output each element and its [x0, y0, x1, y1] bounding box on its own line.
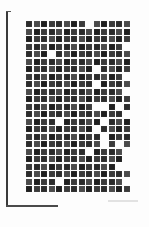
grid-cell [124, 21, 130, 27]
grid-cell [26, 21, 32, 27]
page-footer [108, 200, 138, 202]
grid-cell [56, 29, 62, 35]
grid-cell [101, 164, 107, 170]
grid-cell [94, 74, 100, 80]
grid-cell [26, 89, 32, 95]
grid-cell [116, 29, 122, 35]
grid-cell [109, 81, 115, 87]
grid-cell [86, 111, 92, 117]
grid-cell [86, 134, 92, 140]
grid-cell [64, 36, 70, 42]
grid-cell [64, 156, 70, 162]
grid-cell [79, 141, 85, 147]
grid-cell [94, 81, 100, 87]
grid-cell [124, 104, 130, 110]
grid-cell [86, 156, 92, 162]
grid-cell [34, 156, 40, 162]
grid-cell [64, 126, 70, 132]
grid-cell [34, 119, 40, 125]
grid-cell [86, 104, 92, 110]
grid-cell [71, 111, 77, 117]
grid-cell [41, 74, 47, 80]
grid-cell [56, 111, 62, 117]
grid-cell [49, 51, 55, 57]
grid-cell [109, 149, 115, 155]
grid-cell [86, 141, 92, 147]
grid-cell [94, 134, 100, 140]
grid-cell [56, 134, 62, 140]
grid-cell [124, 171, 130, 177]
grid-cell [124, 186, 130, 192]
grid-cell [26, 36, 32, 42]
grid-cell [116, 66, 122, 72]
grid-cell [124, 29, 130, 35]
grid-cell [49, 29, 55, 35]
grid-cell [79, 29, 85, 35]
grid-cell [86, 36, 92, 42]
grid-cell [56, 74, 62, 80]
grid-cell [94, 89, 100, 95]
grid-cell [41, 171, 47, 177]
grid-cell [79, 104, 85, 110]
grid-cell [56, 89, 62, 95]
grid-cell [64, 104, 70, 110]
grid-cell [49, 186, 55, 192]
grid-cell [101, 66, 107, 72]
grid-cell [41, 51, 47, 57]
grid-cell [109, 126, 115, 132]
scanned-page [0, 0, 149, 227]
grid-cell [41, 179, 47, 185]
grid-cell [49, 111, 55, 117]
grid-cell [26, 104, 32, 110]
grid-cell [79, 81, 85, 87]
grid-cell [109, 179, 115, 185]
grid-cell [109, 51, 115, 57]
grid-cell [109, 66, 115, 72]
grid-cell [116, 119, 122, 125]
grid-cell [41, 164, 47, 170]
grid-cell [109, 44, 115, 50]
grid-cell [94, 44, 100, 50]
grid-cell [64, 81, 70, 87]
grid-cell [124, 74, 130, 80]
grid-cell [124, 119, 130, 125]
grid-cell [41, 156, 47, 162]
grid-cell [71, 29, 77, 35]
grid-cell [41, 59, 47, 65]
grid-cell [49, 36, 55, 42]
grid-cell [41, 96, 47, 102]
grid-cell [49, 44, 55, 50]
grid-cell [56, 66, 62, 72]
grid-cell [116, 179, 122, 185]
grid-cell [41, 89, 47, 95]
grid-cell [94, 126, 100, 132]
grid-cell [56, 44, 62, 50]
grid-cell [26, 29, 32, 35]
grid-cell [94, 164, 100, 170]
grid-cell [79, 89, 85, 95]
grid-cell [56, 186, 62, 192]
grid-cell [49, 89, 55, 95]
grid-cell [49, 126, 55, 132]
grid-cell [116, 51, 122, 57]
grid-cell [26, 51, 32, 57]
grid-cell [41, 29, 47, 35]
grid-cell [86, 164, 92, 170]
grid-cell [56, 179, 62, 185]
grid-cell [41, 66, 47, 72]
grid-cell [34, 111, 40, 117]
grid-cell [71, 141, 77, 147]
grid-cell [86, 81, 92, 87]
grid-cell [49, 171, 55, 177]
grid-cell [49, 141, 55, 147]
grid-cell [94, 29, 100, 35]
grid-cell [49, 59, 55, 65]
bottom-border-line [6, 205, 58, 207]
grid-cell [116, 74, 122, 80]
grid-cell [71, 51, 77, 57]
grid-cell [109, 21, 115, 27]
grid-cell [101, 186, 107, 192]
grid-cell [101, 149, 107, 155]
grid-cell [101, 179, 107, 185]
grid-cell [94, 186, 100, 192]
